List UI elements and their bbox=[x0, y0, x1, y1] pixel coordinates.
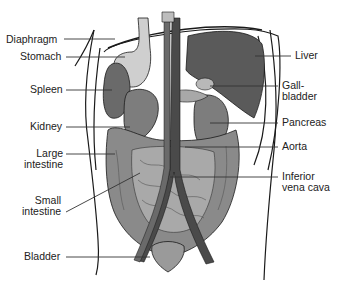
label-diaphragm: Diaphragm bbox=[6, 34, 57, 45]
label-liver: Liver bbox=[295, 50, 318, 61]
label-aorta: Aorta bbox=[282, 141, 307, 152]
label-spleen: Spleen bbox=[30, 84, 63, 95]
label-kidney: Kidney bbox=[30, 121, 62, 132]
bladder-shape bbox=[152, 242, 185, 273]
label-small-intestine: Small intestine bbox=[22, 195, 61, 217]
esophagus-shape bbox=[162, 12, 174, 22]
gallbladder-shape bbox=[196, 78, 214, 90]
label-bladder: Bladder bbox=[24, 251, 60, 262]
label-stomach: Stomach bbox=[20, 51, 61, 62]
label-gall-bladder: Gall- bladder bbox=[282, 80, 317, 102]
label-pancreas: Pancreas bbox=[282, 117, 326, 128]
label-inferior-vena-cava: Inferior vena cava bbox=[282, 171, 330, 193]
anatomy-diagram: Diaphragm Stomach Spleen Kidney Large in… bbox=[0, 0, 342, 283]
label-large-intestine: Large intestine bbox=[24, 148, 63, 170]
